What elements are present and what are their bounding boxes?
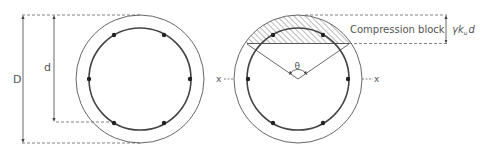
left-section: D d: [13, 15, 204, 143]
circular-column-diagram: D d θ: [0, 0, 487, 153]
compression-block-label: Compression block: [350, 24, 445, 35]
axis-right-label: x: [374, 74, 380, 84]
effective-depth-label: d: [44, 61, 51, 74]
outer-concrete-circle: [76, 15, 204, 143]
reinforcing-bars: [87, 33, 192, 125]
outer-diameter-label: D: [13, 73, 21, 86]
angle-label: θ: [295, 61, 301, 71]
reinforcement-circle: [89, 28, 191, 130]
angle-line-left: [247, 44, 298, 79]
block-depth-label: γkud: [452, 24, 476, 36]
angle-line-right: [298, 44, 349, 79]
right-section: θ x x Compression block γkud: [216, 15, 476, 143]
axis-left-label: x: [216, 74, 222, 84]
